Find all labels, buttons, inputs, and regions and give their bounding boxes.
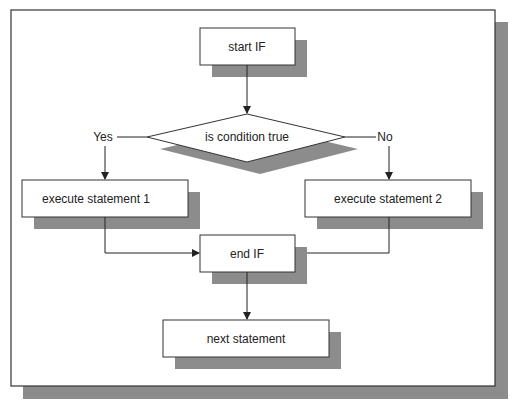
end-if-label: end IF [230, 247, 264, 261]
node-end-if: end IF [200, 235, 307, 284]
yes-label: Yes [93, 130, 113, 144]
start-if-label: start IF [228, 40, 265, 54]
flowchart-canvas: start IF is condition true Yes No execut… [0, 0, 512, 406]
exec2-label: execute statement 2 [334, 192, 442, 206]
no-label: No [377, 130, 393, 144]
exec1-label: execute statement 1 [42, 192, 150, 206]
next-label: next statement [207, 332, 286, 346]
node-start-if: start IF [200, 28, 307, 77]
decision-label: is condition true [205, 130, 289, 144]
node-execute-statement-1: execute statement 1 [22, 180, 200, 229]
node-execute-statement-2: execute statement 2 [305, 180, 483, 229]
node-next-statement: next statement [163, 320, 341, 369]
